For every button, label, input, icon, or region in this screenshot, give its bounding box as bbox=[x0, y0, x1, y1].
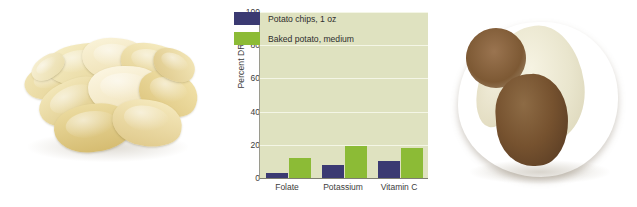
x-tick-label: Potassium bbox=[323, 182, 363, 192]
potato-chips-photo bbox=[0, 0, 218, 207]
legend-item: Potato chips, 1 oz bbox=[234, 12, 354, 25]
y-tick-label: 20 bbox=[230, 140, 260, 150]
legend-label: Baked potato, medium bbox=[268, 34, 354, 44]
figure-panel: Percent DRI* 020406080100 Potato chips, … bbox=[0, 0, 637, 207]
y-tick-label: 0 bbox=[230, 173, 260, 183]
bar bbox=[289, 158, 311, 178]
legend-label: Potato chips, 1 oz bbox=[268, 14, 336, 24]
y-tick-label: 40 bbox=[230, 107, 260, 117]
x-tick-label: Vitamin C bbox=[381, 182, 418, 192]
bar bbox=[345, 145, 367, 178]
legend-swatch bbox=[234, 12, 260, 25]
y-tick-label: 60 bbox=[230, 73, 260, 83]
baked-potato-photo bbox=[440, 0, 637, 207]
gridline bbox=[260, 112, 428, 113]
bar bbox=[266, 173, 288, 178]
gridline bbox=[260, 145, 428, 146]
bar bbox=[401, 148, 423, 178]
gridline bbox=[260, 78, 428, 79]
bar bbox=[378, 161, 400, 178]
legend-item: Baked potato, medium bbox=[234, 32, 354, 45]
x-tick-label: Folate bbox=[275, 182, 299, 192]
bar bbox=[322, 165, 344, 178]
legend-swatch bbox=[234, 32, 260, 45]
nutrient-bar-chart: Percent DRI* 020406080100 Potato chips, … bbox=[222, 0, 434, 207]
chart-legend: Potato chips, 1 ozBaked potato, medium bbox=[234, 12, 354, 52]
x-axis-labels: FolatePotassiumVitamin C bbox=[259, 182, 429, 202]
bar-group bbox=[372, 12, 428, 178]
